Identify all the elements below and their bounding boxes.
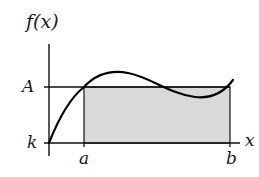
x-axis-label: x bbox=[245, 132, 255, 149]
interval-end-label: b bbox=[226, 150, 237, 167]
baseline-label: k bbox=[27, 134, 37, 151]
mean-value-diagram: f(x) A k a b x bbox=[0, 0, 259, 177]
interval-start-label: a bbox=[79, 150, 89, 167]
mean-value-label: A bbox=[22, 78, 34, 95]
shaded-area bbox=[84, 87, 230, 143]
y-axis-label: f(x) bbox=[26, 12, 59, 31]
